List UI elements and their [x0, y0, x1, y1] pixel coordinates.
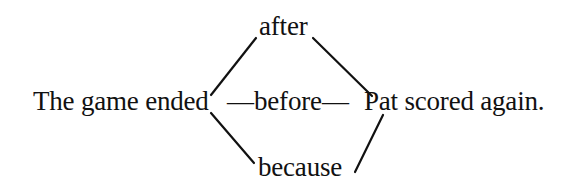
alternative-bottom-because: because	[258, 154, 342, 181]
connective-before: before	[254, 88, 322, 115]
dash-right: —	[322, 88, 349, 115]
alternative-top-after: after	[259, 13, 307, 40]
subject-clause: The game ended	[33, 88, 209, 115]
dash-left: —	[227, 88, 254, 115]
connective-alternatives-diagram: after The game ended — before — Pat scor…	[0, 0, 588, 186]
object-clause: Pat scored again.	[364, 88, 544, 115]
line-ended-to-because	[211, 113, 254, 163]
line-because-to-pat	[355, 115, 383, 172]
